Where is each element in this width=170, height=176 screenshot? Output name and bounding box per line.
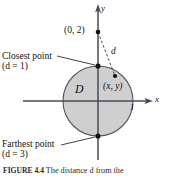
closest-point-distance: (d = 1) (2, 62, 52, 72)
generic-point-label: (x, y) (103, 82, 123, 92)
closest-point-leader-line (57, 56, 95, 65)
figure-container: (0, 2) y x d D (x, y) 1 Closest point (d… (0, 0, 170, 176)
figure-caption: FIGURE 4.4 The distance d from the (3, 166, 170, 176)
y-axis-label: y (101, 4, 105, 13)
closest-point-annotation: Closest point (d = 1) (2, 52, 52, 72)
disk-region-label: D (75, 84, 84, 96)
generic-point-marker (113, 74, 117, 78)
external-point-label: (0, 2) (64, 26, 85, 36)
external-point-marker (96, 30, 101, 35)
figure-caption-text: The distance d from the (46, 166, 124, 175)
figure-caption-lead: FIGURE 4.4 (3, 166, 44, 175)
farthest-point-annotation: Farthest point (d = 3) (2, 140, 55, 160)
radius-label: 1 (130, 103, 134, 112)
x-axis-label: x (155, 95, 159, 104)
farthest-point-distance: (d = 3) (2, 150, 55, 160)
closest-point-marker (95, 63, 100, 68)
farthest-point-leader-line (61, 137, 95, 145)
farthest-point-marker (95, 133, 100, 138)
distance-d-label: d (111, 47, 116, 57)
